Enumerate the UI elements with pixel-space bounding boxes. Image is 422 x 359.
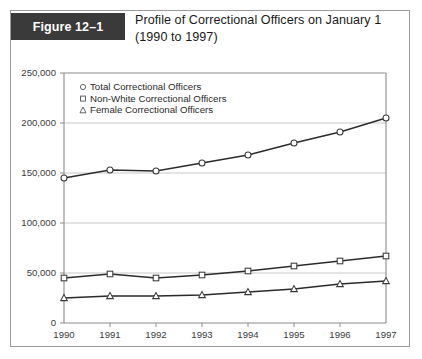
data-point-marker bbox=[61, 275, 67, 281]
y-tick-label: 200,000 bbox=[21, 117, 56, 128]
x-tick-label: 1995 bbox=[283, 329, 304, 340]
data-point-marker bbox=[153, 275, 159, 281]
legend-label: Non-White Correctional Officers bbox=[90, 93, 227, 104]
chart-y-ticks bbox=[60, 73, 64, 323]
chart-x-ticks bbox=[110, 323, 340, 327]
chart-plot-area: 050,000100,000150,000200,000250,000 1990… bbox=[11, 11, 411, 348]
data-point-marker bbox=[245, 268, 251, 274]
x-tick-label: 1991 bbox=[99, 329, 120, 340]
data-point-marker bbox=[383, 115, 389, 121]
data-point-marker bbox=[291, 140, 297, 146]
data-point-marker bbox=[291, 263, 297, 269]
y-tick-label: 250,000 bbox=[21, 67, 56, 78]
data-point-marker bbox=[383, 253, 389, 259]
x-tick-label: 1992 bbox=[145, 329, 166, 340]
y-tick-label: 100,000 bbox=[21, 217, 56, 228]
chart-y-axis-labels: 050,000100,000150,000200,000250,000 bbox=[21, 67, 56, 328]
legend-marker bbox=[81, 96, 86, 101]
y-tick-label: 0 bbox=[51, 317, 56, 328]
x-tick-label: 1990 bbox=[53, 329, 74, 340]
legend-label: Total Correctional Officers bbox=[90, 81, 201, 92]
figure-card: Figure 12–1 Profile of Correctional Offi… bbox=[10, 10, 410, 347]
chart-legend: Total Correctional OfficersNon-White Cor… bbox=[80, 81, 227, 115]
data-point-marker bbox=[245, 152, 251, 158]
x-tick-label: 1994 bbox=[237, 329, 259, 340]
x-tick-label: 1996 bbox=[329, 329, 350, 340]
data-point-marker bbox=[61, 175, 67, 181]
y-tick-label: 150,000 bbox=[21, 167, 56, 178]
data-point-marker bbox=[337, 258, 343, 264]
chart-x-axis-labels: 19901991199219931994199519961997 bbox=[53, 329, 396, 340]
data-point-marker bbox=[199, 160, 205, 166]
line-chart: 050,000100,000150,000200,000250,000 1990… bbox=[11, 11, 411, 348]
x-tick-label: 1997 bbox=[375, 329, 396, 340]
legend-marker bbox=[80, 84, 85, 89]
chart-series bbox=[61, 253, 389, 281]
x-tick-label: 1993 bbox=[191, 329, 212, 340]
legend-marker bbox=[80, 107, 86, 113]
chart-series bbox=[61, 115, 389, 181]
y-tick-label: 50,000 bbox=[27, 267, 56, 278]
data-point-marker bbox=[199, 272, 205, 278]
data-point-marker bbox=[337, 129, 343, 135]
data-point-marker bbox=[107, 271, 113, 277]
data-point-marker bbox=[107, 167, 113, 173]
chart-gridlines bbox=[64, 123, 386, 273]
data-point-marker bbox=[153, 168, 159, 174]
chart-series bbox=[61, 278, 390, 301]
legend-label: Female Correctional Officers bbox=[90, 104, 213, 115]
